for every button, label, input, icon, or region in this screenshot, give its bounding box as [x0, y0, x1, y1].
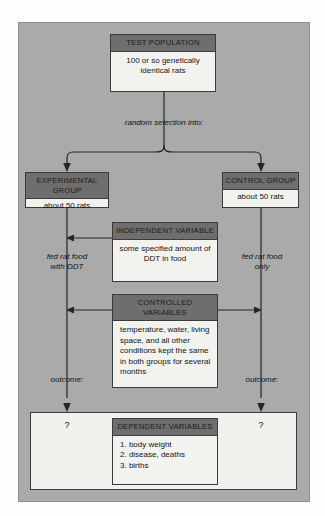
dependent-variable-item: 3. births: [120, 461, 213, 472]
box-control-group-header: CONTROL GROUP: [223, 173, 298, 190]
annotation-right-outcome: outcome:: [227, 375, 297, 385]
dependent-variable-item: 2. disease, deaths: [120, 450, 213, 461]
dependent-variable-item: 1. body weight: [120, 440, 213, 451]
box-dependent-variables[interactable]: DEPENDENT VARIABLES 1. body weight 2. di…: [112, 418, 218, 485]
box-controlled-variables-body: temperature, water, living space, and al…: [113, 321, 217, 382]
box-independent-variable-body: some specified amount of DDT in food: [113, 240, 217, 269]
box-controlled-variables[interactable]: CONTROLLED VARIABLES temperature, water,…: [112, 294, 218, 388]
box-test-population-header: TEST POPULATION: [111, 35, 215, 52]
box-control-group[interactable]: CONTROL GROUP about 50 rats: [222, 172, 299, 208]
box-test-population-body: 100 or so genetically identical rats: [111, 52, 215, 81]
annotation-left-treatment: fed rat food with DDT: [22, 252, 112, 272]
box-independent-variable-header: INDEPENDENT VARIABLE: [113, 223, 217, 240]
box-dependent-variables-header: DEPENDENT VARIABLES: [113, 419, 217, 436]
box-experimental-group-header: EXPERIMENTAL GROUP: [26, 173, 108, 199]
box-test-population[interactable]: TEST POPULATION 100 or so genetically id…: [110, 34, 216, 92]
annotation-right-treatment: fed rat food only: [219, 252, 305, 272]
box-experimental-group-body: about 50 rats: [26, 199, 108, 214]
left-question-mark: ?: [52, 420, 82, 430]
box-controlled-variables-header: CONTROLLED VARIABLES: [113, 295, 217, 321]
box-experimental-group[interactable]: EXPERIMENTAL GROUP about 50 rats: [25, 172, 109, 208]
box-dependent-variables-body: 1. body weight 2. disease, deaths 3. bir…: [113, 436, 217, 476]
annotation-left-outcome: outcome:: [32, 375, 102, 385]
annotation-random-selection: random selection into:: [104, 118, 224, 128]
box-control-group-body: about 50 rats: [223, 190, 298, 205]
diagram-canvas: TEST POPULATION 100 or so genetically id…: [0, 0, 325, 516]
box-independent-variable[interactable]: INDEPENDENT VARIABLE some specified amou…: [112, 222, 218, 282]
right-question-mark: ?: [246, 420, 276, 430]
